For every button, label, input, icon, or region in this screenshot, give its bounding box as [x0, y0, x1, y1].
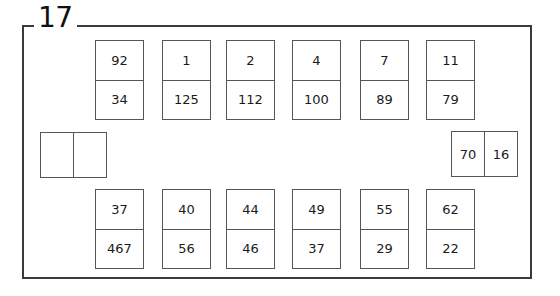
fuse-bottom-label: 100 — [293, 80, 340, 120]
relay-right-label: 16 — [484, 132, 517, 176]
relay-slot-left — [40, 132, 107, 178]
panel-title: 17 — [34, 4, 77, 32]
fuse-top-label: 55 — [361, 190, 408, 229]
fuse-top-label: 40 — [163, 190, 210, 229]
fuse-top-label: 44 — [227, 190, 274, 229]
fuse-bottom-label: 56 — [163, 229, 210, 269]
fuse-slot-top-2: 1 125 — [162, 40, 211, 120]
fuse-top-label: 92 — [96, 41, 143, 80]
fuse-slot-bottom-5: 55 29 — [360, 189, 409, 269]
fuse-top-label: 2 — [227, 41, 274, 80]
fuse-slot-top-1: 92 34 — [95, 40, 144, 120]
fuse-bottom-label: 467 — [96, 229, 143, 269]
fuse-top-label: 62 — [427, 190, 474, 229]
fuse-bottom-label: 89 — [361, 80, 408, 120]
relay-left-label: 70 — [452, 132, 484, 176]
fuse-top-label: 1 — [163, 41, 210, 80]
fuse-bottom-label: 37 — [293, 229, 340, 269]
fuse-bottom-label: 22 — [427, 229, 474, 269]
fuse-slot-top-4: 4 100 — [292, 40, 341, 120]
relay-right-label — [73, 133, 106, 177]
fuse-top-label: 4 — [293, 41, 340, 80]
fuse-slot-bottom-4: 49 37 — [292, 189, 341, 269]
fuse-top-label: 11 — [427, 41, 474, 80]
relay-slot-right: 70 16 — [451, 131, 518, 177]
fuse-bottom-label: 125 — [163, 80, 210, 120]
fuse-bottom-label: 79 — [427, 80, 474, 120]
fuse-top-label: 7 — [361, 41, 408, 80]
fuse-slot-bottom-3: 44 46 — [226, 189, 275, 269]
fuse-bottom-label: 46 — [227, 229, 274, 269]
fuse-bottom-label: 29 — [361, 229, 408, 269]
fuse-slot-top-5: 7 89 — [360, 40, 409, 120]
fuse-bottom-label: 112 — [227, 80, 274, 120]
fuse-bottom-label: 34 — [96, 80, 143, 120]
fuse-slot-bottom-6: 62 22 — [426, 189, 475, 269]
fuse-slot-top-6: 11 79 — [426, 40, 475, 120]
fuse-slot-bottom-2: 40 56 — [162, 189, 211, 269]
fuse-top-label: 49 — [293, 190, 340, 229]
fuse-top-label: 37 — [96, 190, 143, 229]
fuse-slot-top-3: 2 112 — [226, 40, 275, 120]
fuse-slot-bottom-1: 37 467 — [95, 189, 144, 269]
relay-left-label — [41, 133, 73, 177]
